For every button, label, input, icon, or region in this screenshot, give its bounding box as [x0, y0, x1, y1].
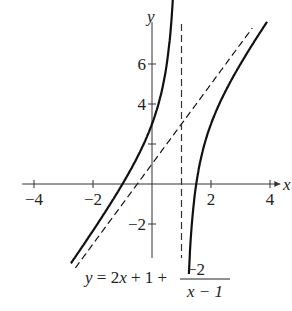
curve-right-branch	[189, 22, 267, 274]
y-axis-label: y	[145, 7, 155, 26]
x-tick-label: 2	[207, 190, 216, 209]
equation-numerator: −2	[187, 260, 205, 279]
x-axis-label: x	[282, 175, 291, 194]
y-tick-label: −2	[128, 215, 146, 234]
x-tick-label: −2	[84, 190, 102, 209]
x-tick-label: −4	[25, 190, 44, 209]
x-axis-arrow-icon	[274, 181, 280, 187]
x-tick-label: 4	[266, 190, 275, 209]
y-tick-label: 4	[138, 95, 147, 114]
equation-label: y = 2x + 1 + −2 x − 1	[83, 260, 230, 301]
curves	[71, 0, 267, 274]
y-tick-label: 6	[138, 55, 147, 74]
equation-denominator: x − 1	[186, 282, 223, 301]
axes	[22, 22, 280, 258]
graph: −4−224−246 y x y = 2x + 1 + −2 x − 1	[0, 0, 292, 311]
equation-lhs: y = 2x + 1 +	[83, 268, 167, 287]
curve-left-branch	[71, 0, 173, 263]
oblique-asymptote	[75, 28, 252, 268]
